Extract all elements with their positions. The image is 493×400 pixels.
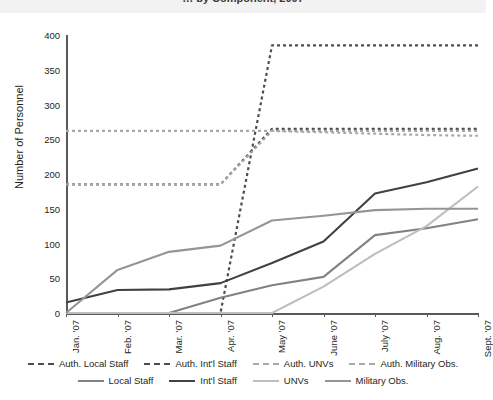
legend-item[interactable]: Auth. UNVs (253, 358, 334, 369)
legend-swatch-dashed-line-icon (349, 363, 375, 365)
legend-label: Local Staff (109, 375, 154, 386)
legend-label: Military Obs. (356, 375, 409, 386)
legend-swatch-dashed-line-icon (253, 363, 279, 365)
series-line (66, 209, 478, 313)
legend-label: Int'l Staff (200, 375, 237, 386)
chart-legend: Auth. Local StaffAuth. Int'l StaffAuth. … (0, 355, 486, 389)
chart-plot-area (0, 13, 486, 400)
legend-label: Auth. Local Staff (59, 358, 129, 369)
chart-container: Number of Personnel 05010015020025030035… (0, 13, 486, 400)
series-line (66, 129, 478, 185)
legend-item[interactable]: Auth. Local Staff (28, 358, 129, 369)
series-line (66, 168, 478, 302)
legend-label: Auth. Int'l Staff (175, 358, 236, 369)
page-title: … by Component, 2007 (0, 0, 486, 4)
legend-swatch-solid-line-icon (325, 380, 351, 382)
series-line (66, 131, 478, 185)
legend-swatch-dashed-line-icon (144, 363, 170, 365)
legend-label: UNVs (284, 375, 309, 386)
legend-item[interactable]: Auth. Int'l Staff (144, 358, 236, 369)
legend-swatch-solid-line-icon (169, 380, 195, 382)
legend-item[interactable]: Military Obs. (325, 375, 409, 386)
legend-label: Auth. UNVs (284, 358, 334, 369)
legend-item[interactable]: Int'l Staff (169, 375, 237, 386)
legend-label: Auth. Military Obs. (380, 358, 458, 369)
legend-swatch-solid-line-icon (253, 380, 279, 382)
legend-row-actual: Local StaffInt'l StaffUNVsMilitary Obs. (0, 372, 486, 389)
legend-item[interactable]: Auth. Military Obs. (349, 358, 458, 369)
series-line (66, 187, 478, 313)
legend-swatch-dashed-line-icon (28, 363, 54, 365)
cut-off-title-strip: … by Component, 2007 (0, 0, 486, 13)
legend-row-authorized: Auth. Local StaffAuth. Int'l StaffAuth. … (0, 355, 486, 372)
legend-item[interactable]: Local Staff (78, 375, 154, 386)
legend-item[interactable]: UNVs (253, 375, 309, 386)
series-line (66, 45, 478, 313)
legend-swatch-solid-line-icon (78, 380, 104, 382)
